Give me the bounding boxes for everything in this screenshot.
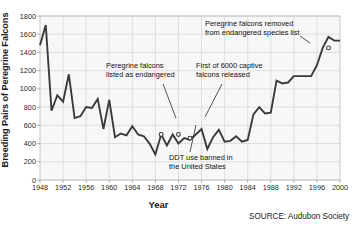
- marker-ddt-use-banned: [177, 133, 181, 137]
- svg-text:1980: 1980: [216, 183, 232, 192]
- marker-peregrine-falcons-listed-as-endangered: [159, 133, 163, 137]
- svg-text:listed as endangered: listed as endangered: [106, 70, 175, 79]
- svg-text:200: 200: [24, 157, 36, 166]
- svg-text:1400: 1400: [20, 48, 36, 57]
- annotation-ddt-banned: DDT use banned in the United States: [169, 153, 233, 171]
- x-axis-title: Year: [0, 199, 353, 210]
- svg-text:1984: 1984: [240, 183, 256, 192]
- marker-first-captive-falcons-released: [188, 136, 192, 140]
- svg-text:DDT use banned in: DDT use banned in: [169, 153, 233, 162]
- svg-text:from endangered species list: from endangered species list: [205, 28, 300, 37]
- marker-peregrine-falcons-removed-from-list: [327, 46, 331, 50]
- y-axis-ticks: 020040060080010001200140016001800: [20, 12, 40, 185]
- svg-text:1968: 1968: [147, 183, 163, 192]
- svg-text:1948: 1948: [32, 183, 48, 192]
- source-credit: SOURCE: Audubon Society: [249, 212, 349, 221]
- chart-canvas: 020040060080010001200140016001800 194819…: [0, 0, 353, 228]
- svg-text:First of 6000 captive: First of 6000 captive: [196, 61, 263, 70]
- svg-text:1000: 1000: [20, 84, 36, 93]
- svg-text:1988: 1988: [263, 183, 279, 192]
- svg-text:1976: 1976: [193, 183, 209, 192]
- svg-text:1996: 1996: [309, 183, 325, 192]
- svg-text:Peregrine falcons: Peregrine falcons: [106, 61, 164, 70]
- chart-figure: Breeding Pairs of Peregrine Falcons 0200…: [0, 0, 353, 228]
- svg-text:1600: 1600: [20, 30, 36, 39]
- svg-text:1972: 1972: [170, 183, 186, 192]
- svg-text:1200: 1200: [20, 66, 36, 75]
- svg-text:falcons released: falcons released: [196, 70, 250, 79]
- svg-text:1956: 1956: [78, 183, 94, 192]
- svg-text:1952: 1952: [55, 183, 71, 192]
- annotation-removed-from-list: Peregrine falcons removed from endangere…: [205, 19, 300, 37]
- svg-text:1800: 1800: [20, 12, 36, 21]
- svg-text:1992: 1992: [286, 183, 302, 192]
- svg-text:2000: 2000: [332, 183, 348, 192]
- x-axis-ticks: 1948195219561960196419681972197619801984…: [32, 180, 348, 192]
- svg-text:1964: 1964: [124, 183, 140, 192]
- svg-text:400: 400: [24, 139, 36, 148]
- svg-text:the United States: the United States: [169, 162, 226, 171]
- svg-text:Peregrine falcons removed: Peregrine falcons removed: [205, 19, 293, 28]
- svg-text:800: 800: [24, 103, 36, 112]
- svg-text:600: 600: [24, 121, 36, 130]
- svg-text:1960: 1960: [101, 183, 117, 192]
